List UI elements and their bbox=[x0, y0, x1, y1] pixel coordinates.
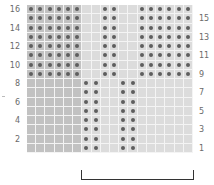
purl-dot-icon bbox=[167, 63, 171, 67]
purl-dot-icon bbox=[177, 35, 181, 39]
chart-cell bbox=[138, 107, 147, 116]
chart-cell bbox=[101, 144, 110, 153]
chart-cell bbox=[73, 88, 82, 97]
chart-cell bbox=[36, 79, 45, 88]
chart-cell bbox=[110, 42, 119, 51]
chart-cell bbox=[128, 125, 137, 134]
chart-cell bbox=[119, 144, 128, 153]
chart-cell bbox=[138, 88, 147, 97]
chart-cell bbox=[165, 125, 174, 134]
purl-dot-icon bbox=[94, 137, 98, 141]
chart-cell bbox=[92, 79, 101, 88]
chart-cell bbox=[45, 61, 54, 70]
chart-cell bbox=[64, 135, 73, 144]
chart-cell bbox=[184, 70, 193, 79]
purl-dot-icon bbox=[57, 63, 61, 67]
chart-cell bbox=[184, 42, 193, 51]
chart-cell bbox=[175, 33, 184, 42]
chart-cell bbox=[138, 98, 147, 107]
chart-cell bbox=[64, 61, 73, 70]
chart-cell bbox=[36, 14, 45, 23]
chart-cell bbox=[156, 88, 165, 97]
purl-dot-icon bbox=[84, 81, 88, 85]
chart-cell bbox=[156, 116, 165, 125]
purl-dot-icon bbox=[140, 53, 144, 57]
chart-cell bbox=[82, 125, 91, 134]
chart-cell bbox=[156, 98, 165, 107]
purl-dot-icon bbox=[94, 90, 98, 94]
purl-dot-icon bbox=[38, 53, 42, 57]
purl-dot-icon bbox=[57, 72, 61, 76]
chart-cell bbox=[45, 14, 54, 23]
chart-cell bbox=[119, 125, 128, 134]
purl-dot-icon bbox=[177, 44, 181, 48]
purl-dot-icon bbox=[177, 26, 181, 30]
chart-cell bbox=[36, 116, 45, 125]
purl-dot-icon bbox=[158, 63, 162, 67]
chart-cell bbox=[64, 88, 73, 97]
chart-cell bbox=[92, 116, 101, 125]
chart-cell bbox=[147, 14, 156, 23]
chart-cell bbox=[119, 42, 128, 51]
chart-cell bbox=[73, 5, 82, 14]
chart-cell bbox=[27, 51, 36, 60]
chart-cell bbox=[119, 51, 128, 60]
purl-dot-icon bbox=[38, 44, 42, 48]
chart-cell bbox=[55, 70, 64, 79]
chart-cell bbox=[101, 14, 110, 23]
chart-cell bbox=[92, 24, 101, 33]
chart-cell bbox=[110, 61, 119, 70]
chart-cell bbox=[175, 144, 184, 153]
row-label-left: 12 bbox=[6, 42, 20, 51]
chart-cell bbox=[147, 125, 156, 134]
chart-cell bbox=[64, 24, 73, 33]
chart-cell bbox=[119, 98, 128, 107]
chart-cell bbox=[119, 14, 128, 23]
chart-cell bbox=[184, 79, 193, 88]
row-label-right: 3 bbox=[199, 125, 211, 134]
chart-cell bbox=[55, 79, 64, 88]
chart-cell bbox=[45, 33, 54, 42]
purl-dot-icon bbox=[57, 53, 61, 57]
chart-cell bbox=[55, 144, 64, 153]
purl-dot-icon bbox=[140, 16, 144, 20]
purl-dot-icon bbox=[48, 44, 52, 48]
chart-cell bbox=[101, 135, 110, 144]
knitting-chart-grid bbox=[27, 5, 193, 153]
purl-dot-icon bbox=[38, 16, 42, 20]
chart-cell bbox=[92, 33, 101, 42]
chart-cell bbox=[55, 98, 64, 107]
chart-cell bbox=[156, 14, 165, 23]
chart-cell bbox=[36, 135, 45, 144]
chart-cell bbox=[165, 79, 174, 88]
chart-cell bbox=[175, 24, 184, 33]
chart-cell bbox=[73, 125, 82, 134]
purl-dot-icon bbox=[84, 146, 88, 150]
purl-dot-icon bbox=[57, 26, 61, 30]
purl-dot-icon bbox=[29, 53, 33, 57]
chart-cell bbox=[184, 98, 193, 107]
chart-cell bbox=[64, 79, 73, 88]
chart-cell bbox=[138, 70, 147, 79]
chart-cell bbox=[101, 88, 110, 97]
chart-cell bbox=[36, 33, 45, 42]
purl-dot-icon bbox=[75, 26, 79, 30]
purl-dot-icon bbox=[29, 72, 33, 76]
chart-cell bbox=[36, 70, 45, 79]
chart-cell bbox=[27, 24, 36, 33]
chart-cell bbox=[128, 42, 137, 51]
chart-cell bbox=[147, 135, 156, 144]
purl-dot-icon bbox=[158, 44, 162, 48]
purl-dot-icon bbox=[48, 26, 52, 30]
chart-cell bbox=[128, 144, 137, 153]
purl-dot-icon bbox=[140, 44, 144, 48]
purl-dot-icon bbox=[149, 7, 153, 11]
purl-dot-icon bbox=[177, 63, 181, 67]
purl-dot-icon bbox=[94, 146, 98, 150]
purl-dot-icon bbox=[103, 44, 107, 48]
chart-cell bbox=[128, 70, 137, 79]
chart-cell bbox=[184, 14, 193, 23]
chart-cell bbox=[175, 42, 184, 51]
chart-cell bbox=[92, 98, 101, 107]
chart-cell bbox=[101, 61, 110, 70]
